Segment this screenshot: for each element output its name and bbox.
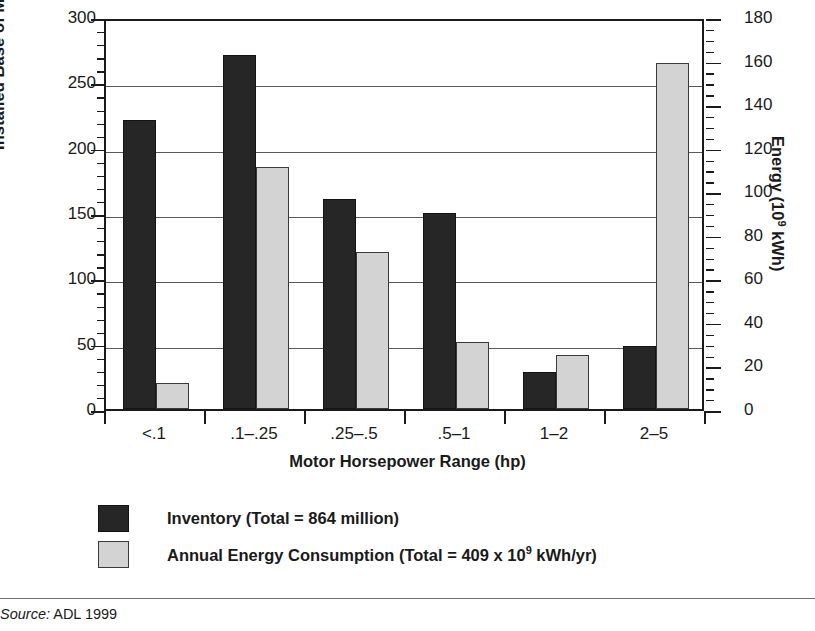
y-axis-right-tick-label: 0 bbox=[744, 400, 814, 420]
bar-inventory bbox=[223, 55, 256, 409]
axis-tick-minor bbox=[97, 320, 104, 321]
axis-tick-minor bbox=[97, 163, 104, 164]
axis-tick-minor bbox=[706, 84, 714, 85]
axis-tick-minor bbox=[97, 359, 104, 360]
axis-tick-minor bbox=[706, 259, 714, 260]
axis-tick-major bbox=[706, 367, 721, 369]
x-axis-title: Motor Horsepower Range (hp) bbox=[0, 452, 815, 471]
bar-group bbox=[106, 21, 206, 409]
y-axis-left-tick-label: 0 bbox=[26, 400, 96, 420]
y-axis-right-tick-label: 120 bbox=[744, 139, 814, 159]
y-axis-right-tick-label: 80 bbox=[744, 226, 814, 246]
axis-tick-minor bbox=[97, 385, 104, 386]
bar-energy bbox=[156, 383, 189, 409]
axis-tick-major bbox=[706, 150, 721, 152]
bar-group bbox=[506, 21, 606, 409]
y-axis-right-tick-label: 60 bbox=[744, 269, 814, 289]
y-axis-left-tick-label: 100 bbox=[26, 269, 96, 289]
axis-tick-minor bbox=[97, 137, 104, 138]
source-note: Source: ADL 1999 bbox=[0, 606, 117, 622]
axis-tick-minor bbox=[97, 372, 104, 373]
axis-tick-major bbox=[91, 84, 104, 86]
axis-tick-major bbox=[706, 106, 721, 108]
y-axis-right-tick-label: 100 bbox=[744, 182, 814, 202]
axis-tick-minor bbox=[97, 45, 104, 46]
legend-swatch-inventory-icon bbox=[98, 505, 129, 532]
axis-tick-minor bbox=[97, 124, 104, 125]
legend-label-inventory: Inventory (Total = 864 million) bbox=[167, 509, 399, 528]
source-divider bbox=[0, 598, 815, 599]
bar-inventory bbox=[623, 346, 656, 409]
chart-container: Installed Base of Motors (millions) Ener… bbox=[0, 0, 815, 500]
axis-tick-minor bbox=[706, 378, 714, 379]
source-label: Source: bbox=[0, 606, 50, 622]
x-axis-tick bbox=[304, 411, 306, 424]
x-axis-tick bbox=[204, 411, 206, 424]
axis-tick-minor bbox=[97, 267, 104, 268]
y-axis-left-tick-label: 50 bbox=[26, 335, 96, 355]
x-axis-tick-label: <.1 bbox=[104, 424, 204, 444]
x-axis-tick-label: .1–.25 bbox=[204, 424, 304, 444]
y-axis-left-title: Installed Base of Motors (millions) bbox=[0, 0, 8, 150]
x-axis-tick-label: .5–1 bbox=[404, 424, 504, 444]
legend-label-energy-pre: Annual Energy Consumption (Total = 409 x… bbox=[167, 545, 526, 563]
x-axis-tick bbox=[704, 411, 706, 424]
axis-tick-major bbox=[91, 215, 104, 217]
axis-tick-major bbox=[91, 346, 104, 348]
bar-group bbox=[606, 21, 706, 409]
bar-group bbox=[306, 21, 406, 409]
source-value: ADL 1999 bbox=[50, 606, 117, 622]
axis-tick-minor bbox=[706, 400, 714, 401]
axis-tick-major bbox=[706, 411, 721, 413]
axis-tick-major bbox=[706, 193, 721, 195]
x-axis-tick bbox=[504, 411, 506, 424]
x-axis-tick bbox=[104, 411, 106, 424]
axis-tick-major bbox=[706, 237, 721, 239]
axis-tick-minor bbox=[706, 204, 714, 205]
axis-tick-minor bbox=[97, 189, 104, 190]
bar-group bbox=[206, 21, 306, 409]
axis-tick-minor bbox=[97, 32, 104, 33]
legend-label-energy: Annual Energy Consumption (Total = 409 x… bbox=[167, 544, 597, 565]
axis-tick-minor bbox=[97, 176, 104, 177]
bar-inventory bbox=[123, 120, 156, 409]
axis-tick-minor bbox=[706, 346, 714, 347]
axis-tick-major bbox=[91, 150, 104, 152]
bar-group bbox=[406, 21, 506, 409]
axis-tick-minor bbox=[706, 30, 714, 31]
axis-tick-minor bbox=[706, 117, 714, 118]
axis-tick-minor bbox=[706, 95, 714, 96]
y-axis-right-tick-label: 180 bbox=[744, 8, 814, 28]
axis-tick-minor bbox=[97, 241, 104, 242]
axis-tick-major bbox=[706, 324, 721, 326]
y-axis-left-tick-label: 150 bbox=[26, 204, 96, 224]
x-axis-tick-label: 2–5 bbox=[604, 424, 704, 444]
axis-tick-minor bbox=[706, 73, 714, 74]
x-axis-tick bbox=[404, 411, 406, 424]
axis-tick-minor bbox=[97, 71, 104, 72]
bar-inventory bbox=[423, 213, 456, 409]
axis-tick-minor bbox=[706, 139, 714, 140]
axis-tick-minor bbox=[706, 302, 714, 303]
axis-tick-minor bbox=[97, 228, 104, 229]
y-axis-left-tick-label: 250 bbox=[26, 73, 96, 93]
axis-tick-major bbox=[706, 280, 721, 282]
bar-energy bbox=[556, 355, 589, 409]
legend-label-energy-post: kWh/yr) bbox=[532, 545, 597, 563]
y-axis-right-tick-label: 160 bbox=[744, 52, 814, 72]
axis-tick-minor bbox=[97, 97, 104, 98]
legend-item-energy: Annual Energy Consumption (Total = 409 x… bbox=[98, 536, 738, 572]
bar-energy bbox=[456, 342, 489, 410]
axis-tick-minor bbox=[706, 291, 714, 292]
plot-area bbox=[104, 19, 704, 411]
axis-tick-minor bbox=[97, 111, 104, 112]
axis-tick-minor bbox=[706, 389, 714, 390]
y-axis-right-tick-label: 140 bbox=[744, 95, 814, 115]
axis-tick-minor bbox=[706, 248, 714, 249]
axis-tick-major bbox=[91, 19, 104, 21]
axis-tick-minor bbox=[706, 215, 714, 216]
axis-tick-major bbox=[91, 280, 104, 282]
bar-series-container bbox=[106, 21, 702, 409]
y-axis-right-tick-label: 40 bbox=[744, 313, 814, 333]
legend-item-inventory: Inventory (Total = 864 million) bbox=[98, 500, 738, 536]
